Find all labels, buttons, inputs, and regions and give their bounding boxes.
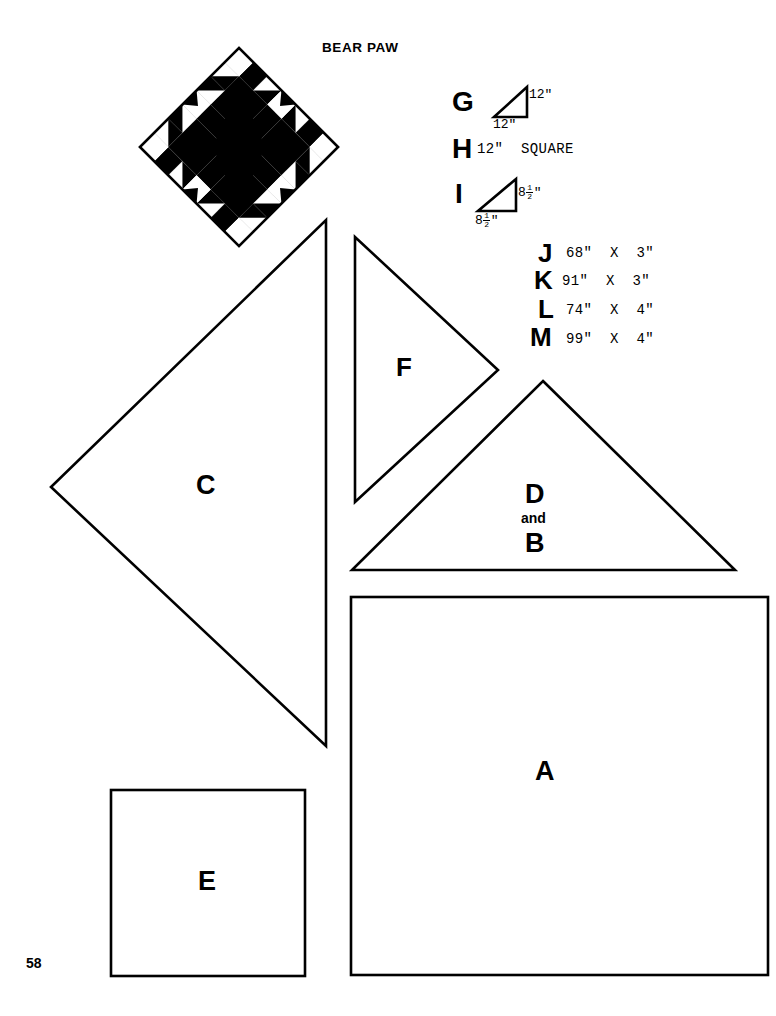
spec-l-text: 74" X 4" — [566, 303, 654, 317]
spec-letter-m: M — [530, 324, 552, 350]
bear-paw-block-diagram — [131, 53, 347, 241]
spec-i-base-den: 2 — [483, 221, 490, 229]
spec-i-side-den: 2 — [526, 193, 533, 201]
piece-a-outline — [348, 594, 772, 980]
spec-letter-j: J — [538, 240, 552, 266]
spec-i-side-whole: 8 — [518, 185, 526, 200]
piece-label-and: and — [521, 511, 546, 525]
page-number: 58 — [26, 955, 42, 971]
spec-letter-l: L — [538, 296, 554, 322]
spec-k-text: 91" X 3" — [562, 274, 650, 288]
spec-i-base-whole: 8 — [475, 213, 483, 228]
pattern-page: BEAR PAW — [0, 0, 776, 1016]
piece-label-e: E — [198, 868, 216, 895]
spec-g-side-label: 12" — [529, 88, 552, 101]
piece-label-a: A — [535, 758, 555, 785]
spec-i-base-label: 812" — [475, 212, 498, 228]
piece-label-c: C — [196, 472, 216, 499]
piece-label-d: D — [525, 481, 545, 508]
spec-i-side-unit: " — [534, 185, 542, 200]
spec-letter-k: K — [534, 267, 553, 293]
spec-letter-i: I — [455, 180, 463, 208]
spec-triangle-g — [492, 84, 532, 120]
piece-c-outline — [44, 214, 336, 754]
spec-m-text: 99" X 4" — [566, 332, 654, 346]
spec-h-text: 12" SQUARE — [477, 142, 574, 156]
spec-triangle-i — [475, 176, 520, 214]
spec-letter-g: G — [452, 88, 474, 116]
spec-i-base-unit: " — [491, 213, 499, 228]
spec-letter-h: H — [452, 135, 472, 163]
spec-i-side-label: 812" — [518, 184, 541, 200]
spec-j-text: 68" X 3" — [566, 246, 654, 260]
piece-label-b: B — [525, 530, 545, 557]
spec-g-base-label: 12" — [493, 118, 516, 131]
